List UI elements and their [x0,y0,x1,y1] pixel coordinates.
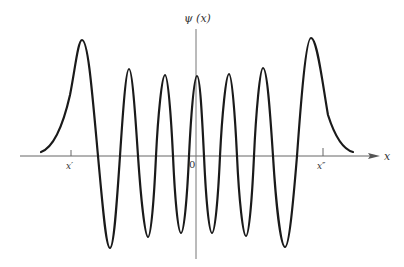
tick-label-x-double-prime: x″ [317,161,326,171]
origin-label: 0 [189,159,195,170]
x-axis-label: x [384,150,391,163]
wavefunction-curve [41,38,353,248]
tick-label-x-prime: x′ [66,161,73,171]
y-axis-label: ψ (x) [184,12,211,25]
wavefunction-plot: ψ (x) x 0 x′ x″ [0,0,404,267]
